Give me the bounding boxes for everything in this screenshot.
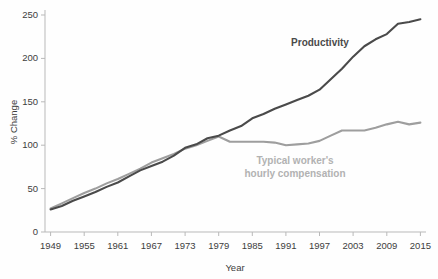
productivity-label: Productivity [291, 37, 349, 48]
series-line-compensation [51, 122, 421, 209]
y-tick-label-250: 250 [22, 9, 38, 20]
x-tick-label-1991: 1991 [275, 240, 296, 251]
x-tick-label-1997: 1997 [309, 240, 330, 251]
x-tick-label-1955: 1955 [74, 240, 95, 251]
x-tick-label-1967: 1967 [141, 240, 162, 251]
x-tick-label-2015: 2015 [410, 240, 431, 251]
productivity-compensation-chart: 0 50 100 150 200 250 1949 1955 1961 1967… [0, 0, 438, 279]
x-tick-label-1961: 1961 [107, 240, 128, 251]
x-tick-label-1985: 1985 [242, 240, 263, 251]
chart-canvas: 0 50 100 150 200 250 1949 1955 1961 1967… [0, 0, 438, 279]
x-axis-title: Year [225, 262, 244, 273]
x-tick-label-1979: 1979 [208, 240, 229, 251]
y-tick-label-0: 0 [33, 226, 38, 237]
y-tick-label-50: 50 [27, 183, 38, 194]
x-tick-label-1949: 1949 [40, 240, 61, 251]
y-axis-title: % Change [8, 100, 19, 144]
y-tick-marks [41, 15, 45, 232]
compensation-label-line1: Typical worker's [256, 155, 334, 166]
x-tick-label-2009: 2009 [376, 240, 397, 251]
y-tick-label-100: 100 [22, 139, 38, 150]
compensation-label-line2: hourly compensation [244, 168, 345, 179]
y-tick-label-200: 200 [22, 52, 38, 63]
y-tick-label-150: 150 [22, 96, 38, 107]
x-tick-label-2003: 2003 [343, 240, 364, 251]
x-tick-marks [51, 232, 421, 236]
x-tick-label-1973: 1973 [175, 240, 196, 251]
series-line-productivity [51, 19, 421, 209]
